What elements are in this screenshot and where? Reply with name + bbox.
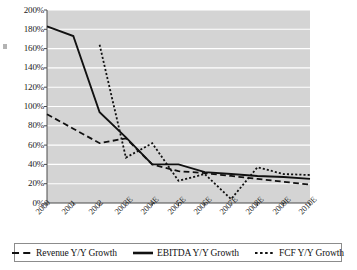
- chart-figure: 200%180%160%140%120%100%80%60%40%20%0% 2…: [0, 0, 357, 270]
- x-axis-tick-label: 2001: [60, 199, 78, 217]
- chart-plot-region: 200%180%160%140%120%100%80%60%40%20%0% 2…: [0, 0, 357, 240]
- legend-entry: FCF Y/Y Growth: [255, 248, 344, 258]
- x-axis-tick-labels: 2000200120022003E2004E2005E2006E2007E200…: [0, 0, 357, 240]
- x-axis-tick-label: 2007E: [218, 195, 239, 216]
- x-axis-tick-label: 2006E: [192, 195, 213, 216]
- x-axis-tick-label: 2004E: [139, 195, 160, 216]
- legend-label: Revenue Y/Y Growth: [36, 248, 117, 258]
- x-axis-tick-label: 2003E: [113, 195, 134, 216]
- x-axis-tick-label: 2008E: [244, 195, 265, 216]
- x-axis-tick-label: 2009E: [271, 195, 292, 216]
- x-axis-tick-label: 2000: [34, 199, 52, 217]
- x-axis-tick-label: 2005E: [166, 195, 187, 216]
- legend-swatch-dotted: [255, 249, 275, 257]
- legend-label: EBITDA Y/Y Growth: [157, 248, 239, 258]
- legend-swatch-dashed: [12, 249, 32, 257]
- x-axis-tick-label: 2010E: [297, 195, 318, 216]
- legend-label: FCF Y/Y Growth: [279, 248, 344, 258]
- x-axis-tick-label: 2002: [87, 199, 105, 217]
- chart-legend: Revenue Y/Y GrowthEBITDA Y/Y GrowthFCF Y…: [14, 243, 342, 262]
- legend-entry: EBITDA Y/Y Growth: [133, 248, 239, 258]
- legend-swatch-solid: [133, 249, 153, 257]
- legend-entry: Revenue Y/Y Growth: [12, 248, 117, 258]
